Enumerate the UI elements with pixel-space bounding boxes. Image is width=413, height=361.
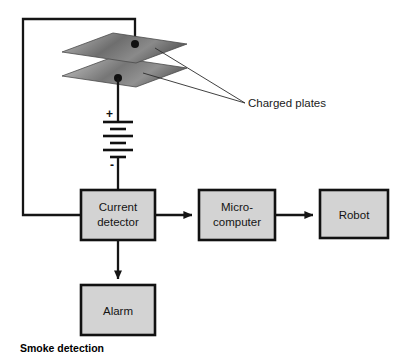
micro-computer-label-line-1: Micro- xyxy=(221,201,253,213)
battery-positive-sign: + xyxy=(106,107,113,121)
alarm-label: Alarm xyxy=(103,305,133,317)
alarm-box[interactable]: Alarm xyxy=(81,285,155,335)
leader-line-upper-plate xyxy=(155,48,245,103)
micro-computer-label-line-2: computer xyxy=(213,216,261,228)
charged-plates-label: Charged plates xyxy=(248,97,326,109)
micro-computer-box-rect[interactable] xyxy=(199,190,275,240)
upper-charged-plate xyxy=(62,33,187,63)
smoke-detection-diagram: Charged plates + - Current detector Micr… xyxy=(0,0,413,361)
current-detector-label-line-1: Current xyxy=(99,201,138,213)
current-detector-label-line-2: detector xyxy=(97,216,139,228)
current-detector-box[interactable]: Current detector xyxy=(81,190,155,240)
robot-box[interactable]: Robot xyxy=(320,190,388,238)
diagram-canvas: Charged plates + - Current detector Micr… xyxy=(0,0,413,361)
current-detector-box-rect[interactable] xyxy=(81,190,155,240)
micro-computer-box[interactable]: Micro- computer xyxy=(199,190,275,240)
robot-label: Robot xyxy=(339,209,370,221)
upper-plate-terminal-dot xyxy=(131,40,139,48)
battery-negative-sign: - xyxy=(110,158,114,172)
battery-symbol xyxy=(103,122,133,157)
figure-caption: Smoke detection xyxy=(20,342,104,354)
leader-line-lower-plate xyxy=(143,73,245,103)
